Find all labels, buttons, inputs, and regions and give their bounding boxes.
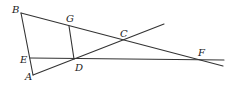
segment-ab <box>21 13 33 75</box>
label-b: B <box>11 4 19 15</box>
line-adc <box>33 24 164 75</box>
segment-gd <box>69 26 74 59</box>
label-c: C <box>120 28 128 39</box>
geometry-diagram: B G C E D A F <box>0 0 237 85</box>
label-g: G <box>66 13 74 24</box>
label-f: F <box>197 47 206 58</box>
label-e: E <box>19 54 28 65</box>
label-a: A <box>24 71 32 82</box>
label-d: D <box>74 62 83 73</box>
